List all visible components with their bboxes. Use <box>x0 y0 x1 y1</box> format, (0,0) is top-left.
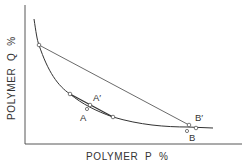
y-axis-label: POLYMER Q % <box>6 36 17 120</box>
marker-A-left <box>68 92 72 96</box>
marker-B-prime <box>187 123 191 127</box>
label-B: B <box>189 132 195 143</box>
marker-top <box>37 43 41 47</box>
marker-A-prime <box>88 103 92 107</box>
marker-A-right <box>111 115 115 119</box>
tie-line-long <box>39 45 189 125</box>
phase-diagram: A′ A B′ B POLYMER P % POLYMER Q % <box>0 0 246 165</box>
marker-B-right <box>194 126 198 130</box>
label-A-prime: A′ <box>93 92 101 103</box>
x-axis-label: POLYMER P % <box>86 151 168 162</box>
binodal-curve <box>34 19 213 128</box>
label-B-prime: B′ <box>195 112 203 123</box>
label-A: A <box>80 112 87 123</box>
marker-A <box>85 107 88 110</box>
